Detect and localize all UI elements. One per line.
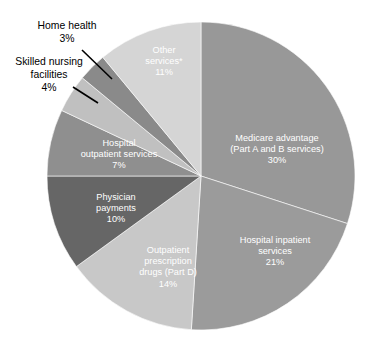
slice-callout-label: Home health3% — [38, 20, 97, 44]
pie-slices — [47, 22, 355, 330]
pie-chart: Medicare advantage(Part A and B services… — [0, 0, 388, 344]
pie-chart-page: Medicare advantage(Part A and B services… — [0, 0, 388, 344]
